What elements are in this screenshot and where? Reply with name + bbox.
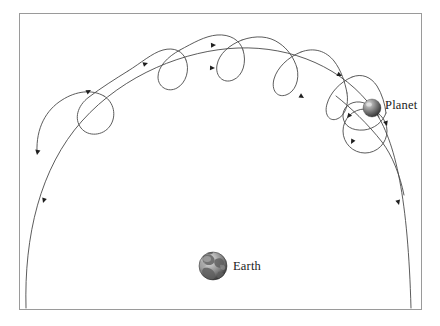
arrow-epicycle-left [349, 138, 356, 145]
epicycle-diagram-svg [0, 0, 440, 326]
epicyclic-looping-path [37, 35, 386, 152]
figure-canvas: Planet Earth [0, 0, 440, 326]
arrow-loop-3 [211, 43, 216, 48]
arrow-deferent-right [395, 200, 401, 206]
arrow-path-end-left [34, 150, 40, 156]
earth-label: Earth [233, 259, 261, 274]
arrow-loop-4 [298, 93, 305, 100]
planet-sphere [363, 99, 381, 117]
earth-globe [199, 251, 227, 280]
arrow-deferent-mid [210, 65, 215, 70]
arrow-loop-2 [143, 61, 149, 67]
planet-label: Planet [385, 98, 417, 113]
arrow-loop-1 [85, 88, 92, 95]
arrow-deferent-left [41, 198, 47, 204]
